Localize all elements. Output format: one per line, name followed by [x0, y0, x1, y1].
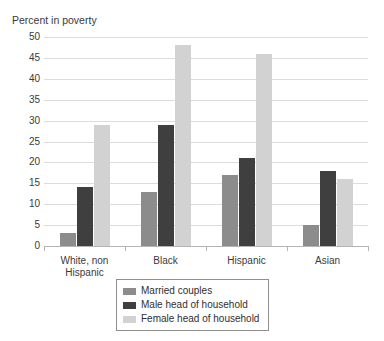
- y-axis-tick-label: 30: [0, 116, 40, 126]
- legend-swatch-icon: [123, 288, 136, 295]
- x-axis-tick-mark: [44, 246, 45, 251]
- x-axis-category-label: White, nonHispanic: [44, 255, 125, 279]
- legend-item: Married couples: [123, 284, 259, 298]
- x-axis-category-label: Asian: [287, 255, 368, 267]
- y-axis-tick-label: 10: [0, 199, 40, 209]
- y-axis-tick-label: 50: [0, 32, 40, 42]
- bar: [60, 233, 76, 246]
- x-axis-tick-mark: [206, 246, 207, 251]
- plot-area: [44, 37, 368, 246]
- bar-group: [60, 37, 110, 246]
- legend-item: Female head of household: [123, 312, 259, 326]
- legend-label: Married couples: [141, 285, 212, 297]
- y-axis-tick-label: 0: [0, 241, 40, 251]
- chart-legend: Married couplesMale head of householdFem…: [116, 279, 269, 331]
- x-axis-category-label: Black: [125, 255, 206, 267]
- bar: [337, 179, 353, 246]
- bar: [158, 125, 174, 246]
- x-axis-category-label-line: White, non: [44, 255, 125, 267]
- bar-group: [222, 37, 272, 246]
- bar-group: [141, 37, 191, 246]
- x-axis-category-label-line: Asian: [287, 255, 368, 267]
- bar: [222, 175, 238, 246]
- y-axis-tick-label: 20: [0, 157, 40, 167]
- x-axis-category-label-line: Black: [125, 255, 206, 267]
- chart-title: Percent in poverty: [12, 14, 97, 26]
- y-axis-tick-label: 35: [0, 95, 40, 105]
- legend-label: Male head of household: [141, 299, 248, 311]
- legend-label: Female head of household: [141, 313, 259, 325]
- x-axis-category-label: Hispanic: [206, 255, 287, 267]
- legend-swatch-icon: [123, 302, 136, 309]
- bar: [239, 158, 255, 246]
- bar: [303, 225, 319, 246]
- x-axis-tick-mark: [287, 246, 288, 251]
- bar: [320, 171, 336, 246]
- y-axis-tick-label: 45: [0, 53, 40, 63]
- y-axis-tick-label: 15: [0, 178, 40, 188]
- y-axis-tick-label: 40: [0, 74, 40, 84]
- legend-item: Male head of household: [123, 298, 259, 312]
- bar: [141, 192, 157, 246]
- y-axis-tick-label: 25: [0, 137, 40, 147]
- bar: [77, 187, 93, 246]
- x-axis-category-label-line: Hispanic: [206, 255, 287, 267]
- y-axis-labels: 50454035302520151050: [0, 37, 40, 246]
- x-axis-tick-mark: [125, 246, 126, 251]
- y-axis-tick-label: 5: [0, 220, 40, 230]
- bar-group: [303, 37, 353, 246]
- bar: [94, 125, 110, 246]
- legend-swatch-icon: [123, 316, 136, 323]
- bar: [256, 54, 272, 246]
- x-axis-category-label-line: Hispanic: [44, 267, 125, 279]
- bar: [175, 45, 191, 246]
- x-axis-tick-mark: [368, 246, 369, 251]
- poverty-bar-chart: Percent in poverty 50454035302520151050 …: [0, 0, 384, 341]
